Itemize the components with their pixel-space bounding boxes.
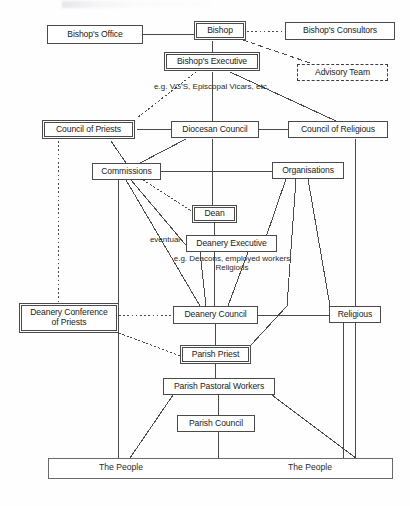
node-label-deanery-council: Deanery Council — [184, 310, 246, 320]
caption-eventual: eventual — [144, 235, 186, 244]
node-religious[interactable]: Religious — [329, 306, 381, 323]
connector-e-comm-dean-dotted — [143, 180, 196, 214]
connector-e-cop-commissions — [111, 141, 126, 163]
node-parish-pastoral[interactable]: Parish Pastoral Workers — [163, 378, 275, 395]
connector-e-diocesan-commissions — [140, 139, 186, 163]
node-label-commissions: Commissions — [101, 167, 151, 177]
node-parish-priest[interactable]: Parish Priest — [180, 345, 251, 364]
node-label-diocesan-council: Diocesan Council — [182, 125, 247, 135]
node-bishops-consultors[interactable]: Bishop's Consultors — [285, 22, 395, 40]
node-organisations[interactable]: Organisations — [272, 162, 344, 179]
node-label-parish-pastoral: Parish Pastoral Workers — [174, 382, 264, 392]
node-deanery-conference[interactable]: Deanery Conference of Priests — [19, 303, 119, 333]
node-commissions[interactable]: Commissions — [92, 163, 161, 180]
caption-people-left: The People — [86, 463, 156, 473]
node-label-parish-priest: Parish Priest — [192, 350, 239, 360]
node-deanery-executive[interactable]: Deanery Executive — [186, 235, 277, 252]
node-label-bishop: Bishop — [207, 26, 233, 36]
node-label-advisory-team: Advisory Team — [315, 68, 370, 78]
node-deanery-council[interactable]: Deanery Council — [173, 306, 258, 324]
caption-people-right: The People — [275, 463, 345, 473]
connector-e-orgs-a — [265, 179, 286, 240]
node-council-of-religious[interactable]: Council of Religious — [288, 121, 388, 138]
organisational-diagram: Bishop's OfficeBishopBishop's Consultors… — [0, 0, 410, 506]
caption-vgs: e.g. VG'S, Episcopal Vicars, etc. — [134, 82, 289, 91]
node-label-parish-council: Parish Council — [189, 419, 243, 429]
node-bishops-office[interactable]: Bishop's Office — [47, 25, 143, 44]
node-label-deanery-conference: Deanery Conference of Priests — [30, 308, 108, 327]
node-label-dean: Dean — [204, 209, 224, 219]
connector-e-orgs-c — [308, 179, 330, 306]
connector-e-exec-cop — [137, 72, 196, 118]
node-label-council-of-priests: Council of Priests — [56, 125, 121, 135]
node-bishops-executive[interactable]: Bishop's Executive — [164, 52, 260, 71]
node-label-bishops-consultors: Bishop's Consultors — [303, 26, 377, 36]
node-bishop[interactable]: Bishop — [194, 21, 246, 40]
node-label-religious: Religious — [338, 310, 372, 320]
node-label-bishops-executive: Bishop's Executive — [177, 57, 247, 67]
node-label-organisations: Organisations — [282, 166, 334, 176]
connector-e-dcp-pp — [119, 333, 180, 356]
node-label-deanery-executive: Deanery Executive — [196, 239, 266, 249]
connector-e-orgs-b — [287, 179, 296, 306]
connector-e-ppw-left — [130, 395, 173, 458]
node-diocesan-council[interactable]: Diocesan Council — [171, 121, 259, 138]
node-label-council-of-religious: Council of Religious — [301, 125, 375, 135]
caption-deacons: e.g. Deacons, employed workers Religious — [148, 254, 316, 272]
node-advisory-team[interactable]: Advisory Team — [297, 64, 388, 81]
node-dean[interactable]: Dean — [192, 205, 237, 223]
node-council-of-priests[interactable]: Council of Priests — [42, 120, 135, 139]
node-label-bishops-office: Bishop's Office — [67, 30, 122, 40]
node-parish-council[interactable]: Parish Council — [177, 415, 255, 432]
